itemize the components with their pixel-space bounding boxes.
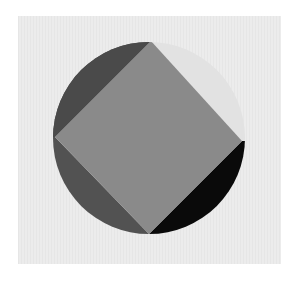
- geometric-artwork: [0, 0, 298, 281]
